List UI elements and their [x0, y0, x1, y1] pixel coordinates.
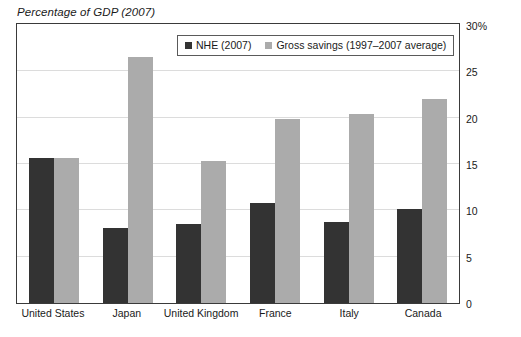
- bar[interactable]: [324, 222, 349, 303]
- x-axis: United StatesJapanUnited KingdomFranceIt…: [16, 307, 460, 319]
- legend-swatch-icon: [185, 42, 192, 49]
- legend-item[interactable]: Gross savings (1997–2007 average): [265, 39, 446, 51]
- bar[interactable]: [201, 161, 226, 303]
- bar[interactable]: [250, 203, 275, 303]
- bar[interactable]: [349, 114, 374, 303]
- x-axis-tick-label: Canada: [386, 307, 460, 319]
- x-axis-tick-label: Japan: [90, 307, 164, 319]
- legend-item[interactable]: NHE (2007): [185, 39, 251, 51]
- y-axis: 051015202530%: [466, 23, 506, 304]
- bar-group: [312, 24, 386, 303]
- bar-group: [385, 24, 459, 303]
- plot-area: [17, 24, 459, 303]
- bar[interactable]: [397, 209, 422, 303]
- bar[interactable]: [29, 158, 54, 303]
- bar-group: [17, 24, 91, 303]
- bar-group: [164, 24, 238, 303]
- bar[interactable]: [103, 228, 128, 303]
- x-axis-tick-label: United States: [16, 307, 90, 319]
- bar[interactable]: [275, 119, 300, 303]
- x-axis-tick-label: France: [238, 307, 312, 319]
- y-axis-tick-label: 15: [466, 159, 478, 171]
- x-axis-tick-label: United Kingdom: [164, 307, 239, 319]
- bar[interactable]: [176, 224, 201, 303]
- bar[interactable]: [54, 158, 79, 303]
- bar[interactable]: [422, 99, 447, 303]
- legend-label: NHE (2007): [196, 39, 251, 51]
- y-axis-tick-label: 20: [466, 113, 478, 125]
- bar-group: [91, 24, 165, 303]
- plot-frame: [16, 23, 460, 304]
- x-axis-tick-label: Italy: [312, 307, 386, 319]
- y-axis-tick-label: 0: [466, 298, 472, 310]
- chart-legend: NHE (2007)Gross savings (1997–2007 avera…: [177, 35, 454, 56]
- bar[interactable]: [128, 57, 153, 303]
- legend-label: Gross savings (1997–2007 average): [276, 39, 446, 51]
- y-axis-tick-label: 30%: [466, 20, 487, 32]
- y-axis-tick-label: 5: [466, 252, 472, 264]
- chart-title: Percentage of GDP (2007): [17, 6, 155, 18]
- legend-swatch-icon: [265, 42, 272, 49]
- y-axis-tick-label: 10: [466, 205, 478, 217]
- bar-group: [238, 24, 312, 303]
- y-axis-tick-label: 25: [466, 66, 478, 78]
